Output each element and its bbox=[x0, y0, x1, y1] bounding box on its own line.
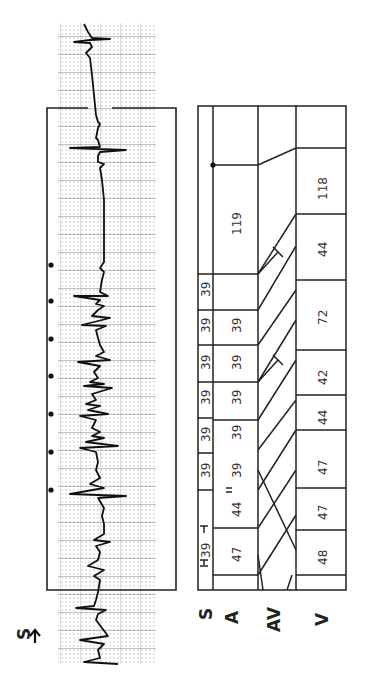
v-interval: 118 bbox=[316, 177, 330, 200]
stimulus-dots bbox=[48, 262, 53, 492]
v-interval: 72 bbox=[316, 310, 330, 325]
s-interval: 39 bbox=[199, 390, 213, 405]
s-tier-values: 39 39 39 39 39 39 39 bbox=[199, 282, 213, 558]
a-interval: 119 bbox=[230, 212, 244, 235]
ecg-ladder-figure: S bbox=[0, 0, 374, 686]
a-interval: 39 bbox=[230, 425, 244, 440]
row-label-a: A bbox=[222, 610, 242, 624]
a-interval: 39 bbox=[230, 355, 244, 370]
a-origin-dot bbox=[210, 162, 215, 167]
row-labels: S A AV V bbox=[196, 606, 332, 632]
v-interval: 47 bbox=[316, 505, 330, 520]
row-label-av: AV bbox=[264, 606, 284, 632]
s-interval: 39 bbox=[199, 282, 213, 297]
v-interval: 47 bbox=[316, 460, 330, 475]
row-label-v: V bbox=[312, 612, 332, 626]
a-interval: 39 bbox=[230, 463, 244, 478]
a-interval: 47 bbox=[230, 547, 244, 562]
s-interval: 39 bbox=[199, 427, 213, 442]
v-interval: 44 bbox=[316, 242, 330, 257]
s-interval: 39 bbox=[199, 543, 213, 558]
ecg-grid-paper bbox=[58, 23, 156, 663]
v-interval: 44 bbox=[316, 410, 330, 425]
v-interval: 42 bbox=[316, 370, 330, 385]
a-interval: 39 bbox=[230, 318, 244, 333]
a-interval: 39 bbox=[230, 390, 244, 405]
v-interval: 48 bbox=[316, 550, 330, 565]
a-interval: 44 bbox=[230, 502, 244, 517]
s-interval: 39 bbox=[199, 318, 213, 333]
row-label-s: S bbox=[196, 608, 216, 620]
a-tier-values: 47 44 39 39 39 39 39 119 bbox=[230, 212, 244, 562]
v-tier-values: 48 47 47 44 42 72 44 118 bbox=[316, 177, 330, 565]
s-interval: 39 bbox=[199, 463, 213, 478]
s-interval: 39 bbox=[199, 355, 213, 370]
